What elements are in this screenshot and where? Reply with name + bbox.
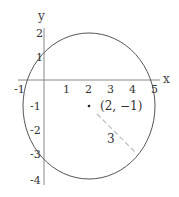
y-tick-label: 1 [36,51,43,64]
x-tick-label: 4 [129,83,136,96]
y-axis-label: y [37,9,45,23]
x-tick-label: 3 [107,83,114,96]
y-tick-label: -3 [30,148,41,161]
x-tick-label: 2 [85,83,92,96]
y-tick-label: -2 [30,124,41,137]
y-tick-label: -1 [30,100,41,113]
y-tick-label: 2 [36,27,43,40]
x-axis-label: x [163,72,170,86]
center-label: (2, −1) [100,99,142,113]
y-tick-label: -4 [30,174,41,187]
x-tick-label: 1 [63,83,70,96]
x-tick-label: -1 [14,83,25,96]
x-tick-label: 5 [151,83,158,96]
coordinate-plane: x y -1 1 2 3 4 5 2 1 -1 -2 -3 -4 (2, −1)… [0,0,179,197]
radius-label: 3 [107,132,115,146]
center-point [88,105,91,108]
radius-line [97,114,136,153]
